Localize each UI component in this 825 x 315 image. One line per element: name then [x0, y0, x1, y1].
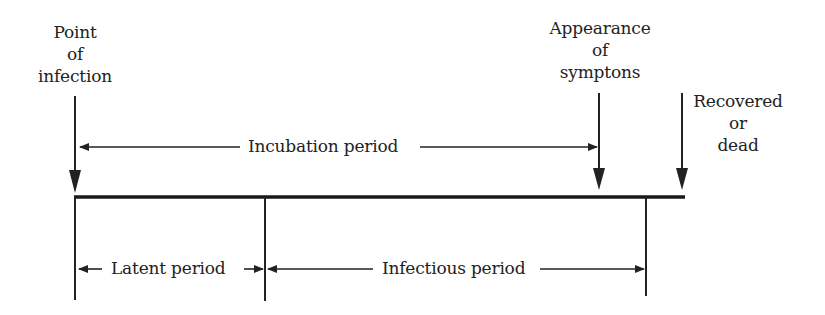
event-label-infection: Point of infection: [20, 21, 130, 87]
outcome-arrowhead: [676, 168, 688, 190]
incubation-period-label: Incubation period: [248, 136, 398, 156]
infection-arrowhead: [69, 170, 81, 193]
latent-period-label: Latent period: [111, 258, 226, 278]
event-label-symptoms: Appearance of symptons: [540, 17, 660, 83]
infectious-period-label: Infectious period: [382, 258, 525, 278]
event-label-outcome: Recovered or dead: [683, 90, 793, 156]
disease-timeline-diagram: Point of infection Appearance of sympton…: [0, 0, 825, 315]
symptoms-arrowhead: [593, 168, 605, 190]
